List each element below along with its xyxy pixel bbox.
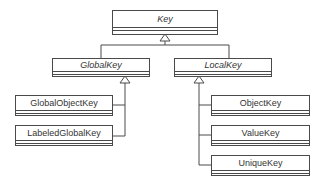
class-name: UniqueKey [212,156,309,171]
class-divider [212,171,309,174]
class-name: Key [113,11,217,28]
class-divider [113,28,217,31]
class-local-key: LocalKey [174,58,272,77]
class-labeled-global-key: LabeledGlobalKey [15,125,113,146]
class-name: GlobalObjectKey [16,96,112,111]
class-global-key: GlobalKey [52,58,150,77]
class-unique-key: UniqueKey [211,155,310,176]
class-divider [16,111,112,114]
class-value-key: ValueKey [211,125,310,146]
class-name: LabeledGlobalKey [16,126,112,141]
class-divider [212,141,309,144]
class-key: Key [112,10,218,35]
class-object-key: ObjectKey [211,95,310,116]
class-divider [16,141,112,144]
class-divider [175,72,271,75]
class-name: ValueKey [212,126,309,141]
class-name: ObjectKey [212,96,309,111]
class-name: GlobalKey [53,59,149,72]
class-divider [212,111,309,114]
class-name: LocalKey [175,59,271,72]
class-global-object-key: GlobalObjectKey [15,95,113,116]
class-divider [53,72,149,75]
